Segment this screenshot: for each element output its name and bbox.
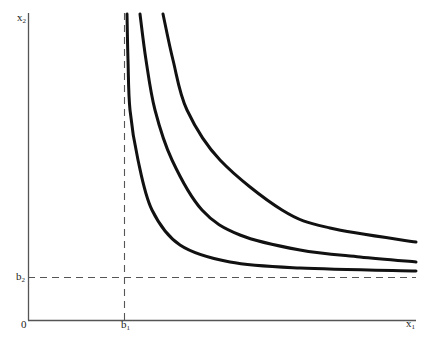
y-axis-label: x2 bbox=[17, 12, 26, 25]
b2-label-sub: 2 bbox=[22, 276, 26, 284]
curve-2 bbox=[140, 14, 416, 262]
x-axis-label-sub: 1 bbox=[412, 323, 416, 331]
origin-label: 0 bbox=[21, 319, 27, 330]
indifference-curves bbox=[127, 14, 416, 271]
b2-label: b2 bbox=[16, 271, 25, 284]
b1-label: b1 bbox=[121, 319, 130, 332]
y-axis-label-sub: 2 bbox=[23, 17, 27, 25]
b1-label-sub: 1 bbox=[127, 324, 131, 332]
x-axis-label: x1 bbox=[406, 318, 415, 331]
diagram-canvas bbox=[0, 0, 431, 339]
